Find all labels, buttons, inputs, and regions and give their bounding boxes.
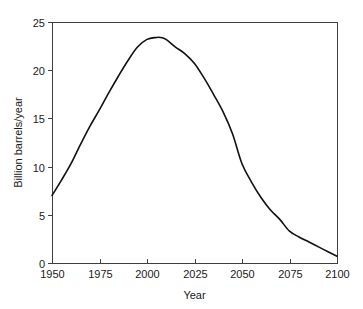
- chart-container: 0510152025 1950197520002025205020752100 …: [0, 0, 363, 309]
- series-line-world-oil-production: [52, 37, 337, 256]
- y-axis-ticks: [48, 23, 52, 264]
- x-axis-ticks: [53, 259, 338, 263]
- x-tick-label: 2075: [278, 268, 302, 280]
- x-tick-label: 2050: [230, 268, 254, 280]
- x-tick-label: 2000: [135, 268, 159, 280]
- x-tick-label: 1950: [40, 268, 64, 280]
- y-tick-label: 20: [33, 65, 45, 77]
- y-tick-label: 25: [33, 17, 45, 29]
- y-axis-title: Billion barrels/year: [12, 97, 24, 188]
- x-tick-label: 1975: [88, 268, 112, 280]
- x-tick-label: 2100: [325, 268, 349, 280]
- y-tick-label: 15: [33, 113, 45, 125]
- data-series-group: [52, 37, 337, 256]
- y-tick-label: 5: [39, 210, 45, 222]
- x-axis-tick-labels: 1950197520002025205020752100: [40, 268, 349, 280]
- y-axis-tick-labels: 0510152025: [33, 17, 45, 270]
- plot-frame: [52, 22, 337, 263]
- x-axis-title: Year: [183, 289, 206, 301]
- y-tick-label: 10: [33, 162, 45, 174]
- line-chart: 0510152025 1950197520002025205020752100 …: [0, 0, 363, 309]
- x-tick-label: 2025: [183, 268, 207, 280]
